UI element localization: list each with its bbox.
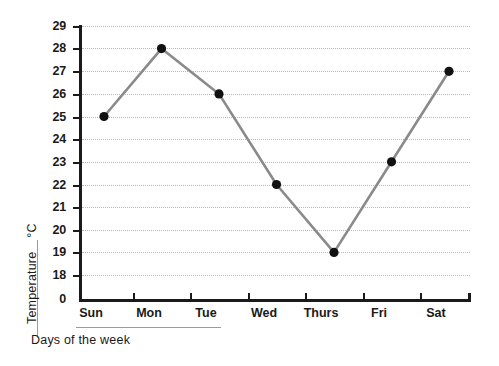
x-axis-title: Days of the week — [31, 333, 130, 347]
y-axis-title: Temperature°C — [25, 124, 39, 324]
data-point — [157, 44, 166, 53]
data-point — [387, 157, 396, 166]
data-point — [214, 89, 223, 98]
data-point — [444, 67, 453, 76]
data-point — [99, 112, 108, 121]
data-point-group — [99, 44, 453, 257]
y-axis-title-unit: °C — [25, 223, 39, 237]
x-axis-title-rule — [76, 327, 221, 328]
data-point — [272, 180, 281, 189]
temperature-line — [104, 49, 449, 253]
series-layer — [0, 0, 499, 366]
temperature-line-chart: 29 28 27 26 25 24 23 22 21 20 19 18 0 Su… — [0, 0, 499, 366]
y-axis-title-name: Temperature — [25, 252, 39, 324]
data-point — [329, 248, 338, 257]
